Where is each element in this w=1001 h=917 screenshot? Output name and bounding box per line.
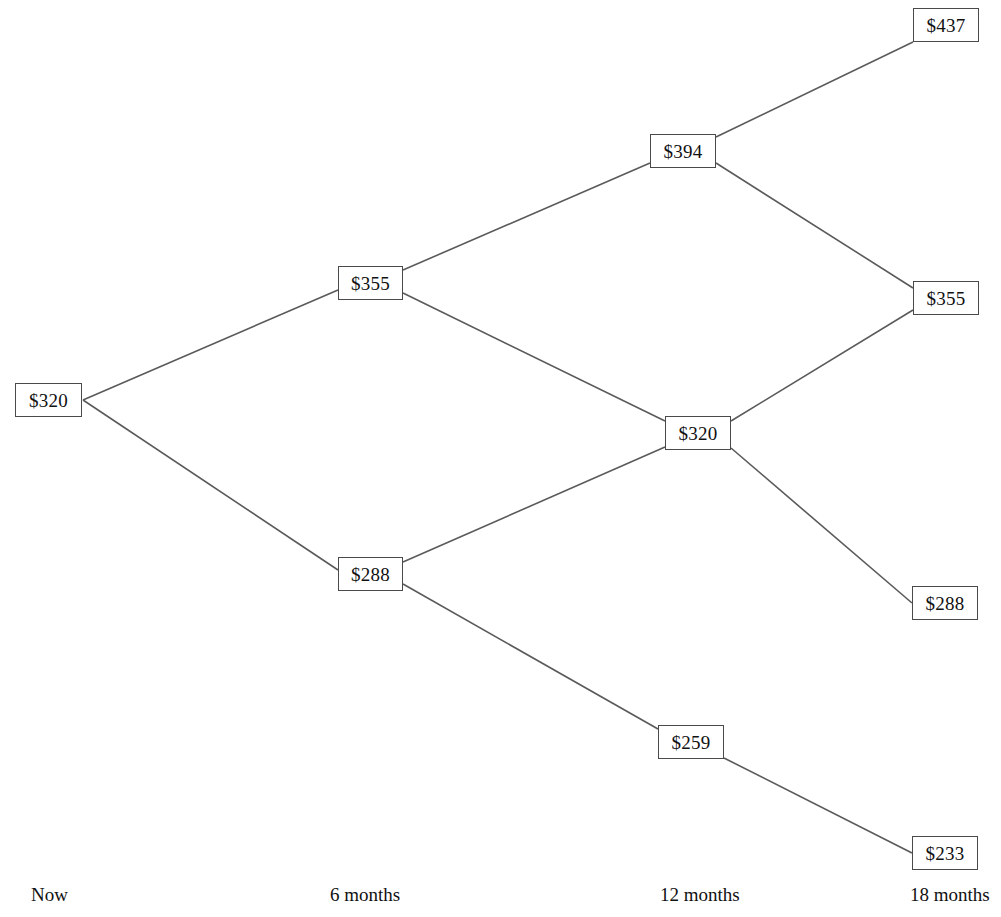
tree-edge — [83, 290, 338, 400]
tree-node: $288 — [338, 557, 403, 591]
time-axis-label-t2: 12 months — [660, 885, 740, 904]
tree-edge — [83, 400, 338, 570]
tree-edge — [731, 310, 913, 421]
tree-node: $394 — [650, 134, 716, 168]
tree-node: $355 — [338, 266, 403, 300]
tree-edge — [731, 448, 912, 603]
tree-node: $355 — [913, 281, 979, 315]
time-axis-label-t1: 6 months — [330, 885, 400, 904]
tree-node: $233 — [912, 836, 978, 870]
time-axis-label-t3: 18 months — [910, 885, 990, 904]
tree-edge — [403, 584, 658, 729]
tree-edge — [716, 163, 913, 288]
time-axis-label-t0: Now — [31, 885, 68, 904]
binomial-tree-diagram: $320$355$288$394$320$259$437$355$288$233… — [0, 0, 1001, 917]
tree-node: $288 — [912, 586, 978, 620]
tree-edge-layer — [0, 0, 1001, 917]
tree-edge — [403, 293, 665, 421]
tree-node: $437 — [913, 8, 979, 42]
tree-node: $259 — [658, 725, 724, 759]
tree-node: $320 — [665, 416, 731, 450]
tree-node: $320 — [15, 383, 82, 417]
tree-edge — [403, 447, 665, 562]
tree-edge — [716, 42, 913, 137]
tree-edge — [403, 163, 650, 270]
tree-edge — [724, 758, 912, 853]
